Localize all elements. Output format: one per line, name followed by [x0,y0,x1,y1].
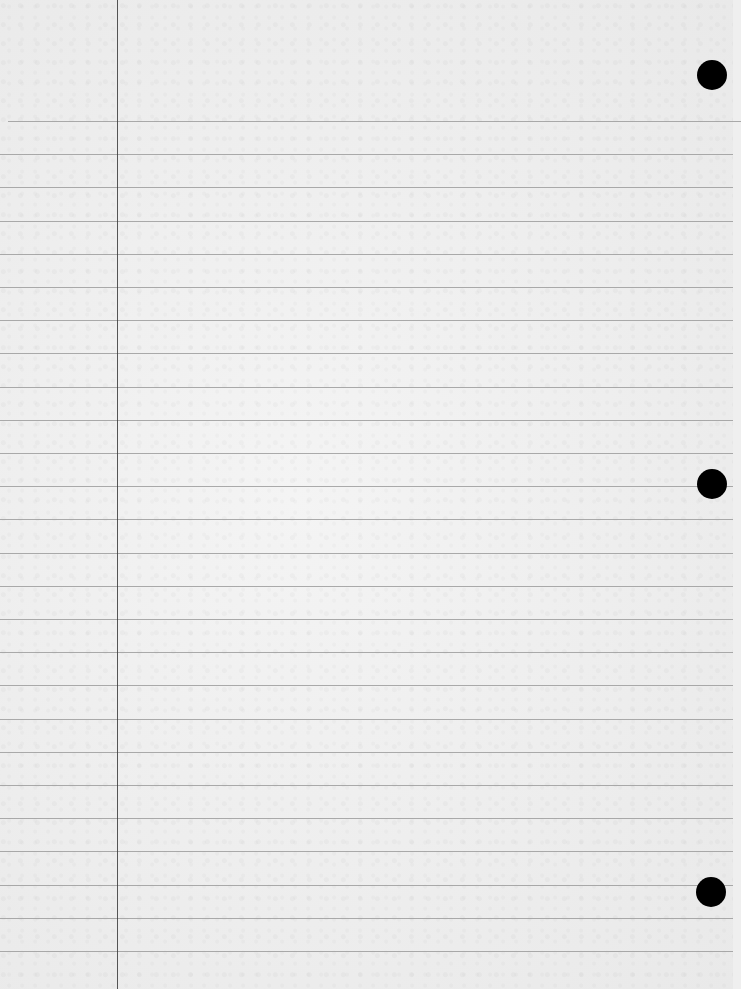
ruled-line [0,420,733,421]
ruled-line [0,885,733,886]
ruled-line [0,519,733,520]
ruled-line [0,254,733,255]
ruled-line [0,652,733,653]
ruled-line [0,553,733,554]
ruled-line [0,221,733,222]
ruled-line [0,287,733,288]
ruled-line [0,387,733,388]
ruled-line [0,353,733,354]
ruled-line [0,785,733,786]
margin-line [117,0,118,989]
ruled-line [0,320,733,321]
punch-hole-middle [697,469,727,499]
ruled-line [0,851,733,852]
ruled-line [0,453,733,454]
ruled-line [0,154,733,155]
ruled-line [0,918,733,919]
ruled-line [0,951,733,952]
ruled-line [0,818,733,819]
punch-hole-top [697,60,727,90]
ruled-line [0,586,733,587]
ruled-line [0,187,733,188]
ruled-line [0,752,733,753]
ruled-line [0,719,733,720]
ruled-line [0,619,733,620]
punch-hole-bottom [696,877,726,907]
ruled-line [0,685,733,686]
ruled-line [0,486,733,487]
